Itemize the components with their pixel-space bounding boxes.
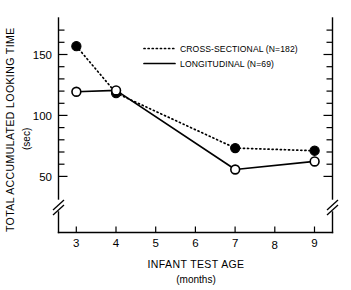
x-tick-label-9: 9 <box>311 237 317 249</box>
x-axis-units: (months) <box>176 274 215 285</box>
x-tick-label-4: 4 <box>113 237 120 249</box>
y-axis-units: (sec) <box>21 128 32 150</box>
datapoint-longitudinal-age7 <box>231 165 240 174</box>
figure-container: 150 100 50 3 4 5 6 7 8 9 <box>0 0 351 290</box>
chart-background <box>0 0 351 290</box>
datapoint-longitudinal-age3 <box>72 87 81 96</box>
x-tick-label-6: 6 <box>192 237 198 249</box>
x-tick-label-7: 7 <box>232 237 238 249</box>
y-tick-label-50: 50 <box>39 171 52 183</box>
y-tick-label-150: 150 <box>33 49 52 61</box>
datapoint-longitudinal-age4 <box>112 86 121 95</box>
x-tick-label-3: 3 <box>73 237 79 249</box>
y-tick-label-100: 100 <box>33 110 52 122</box>
datapoint-cross-sectional-age3 <box>72 42 81 51</box>
x-axis-title: INFANT TEST AGE <box>147 258 244 270</box>
datapoint-cross-sectional-age9 <box>310 146 319 155</box>
x-tick-label-5: 5 <box>152 237 158 249</box>
datapoint-cross-sectional-age7 <box>231 143 240 152</box>
x-tick-label-8: 8 <box>272 239 278 251</box>
line-chart: 150 100 50 3 4 5 6 7 8 9 <box>0 0 351 290</box>
legend-label-longitudinal: LONGITUDINAL (N=69) <box>180 59 274 69</box>
datapoint-longitudinal-age9 <box>310 157 319 166</box>
legend-label-cross-sectional: CROSS-SECTIONAL (N=182) <box>180 44 298 54</box>
y-axis-title: TOTAL ACCUMULATED LOOKING TIME <box>4 27 16 232</box>
